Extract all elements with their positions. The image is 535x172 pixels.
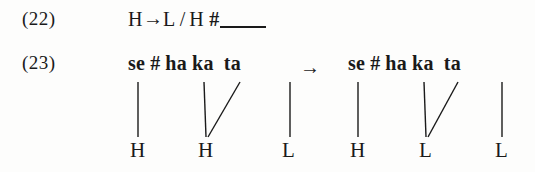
assoc-line-in-ha-h [204,82,206,137]
rule-boundary-marker: # [209,8,219,30]
rule-context-left: H [189,8,204,30]
derivation-arrow-icon: → [300,56,320,79]
example-number-22: (22) [22,8,56,30]
input-tone-h2: H [198,138,213,163]
input-syllable-ha: ha [165,52,187,74]
input-syllable-se: se [128,52,145,74]
rule-arrow-icon: → [143,7,163,30]
figure-canvas: (22) H→L/H # (23) se # ha ka ta → se # h… [0,0,535,172]
output-syllable-ka: ka [412,52,434,74]
rule-expression-22: H→L/H # [128,8,266,31]
output-syllable-ha: ha [385,52,407,74]
output-tone-l2: L [495,138,508,163]
rule-blank-slot [220,10,266,28]
output-syllable-tier: se # ha ka ta [348,52,461,75]
input-boundary-marker: # [150,52,160,74]
output-syllable-ta: ta [444,52,461,74]
output-boundary-marker: # [370,52,380,74]
rule-change: L [163,8,176,30]
input-syllable-ta: ta [224,52,241,74]
assoc-line-out-ha-l [424,82,426,137]
association-lines [0,0,535,172]
assoc-line-in-ka-h [208,82,240,137]
input-syllable-tier: se # ha ka ta [128,52,241,75]
rule-focus: H [128,8,143,30]
assoc-line-out-ka-l [428,82,458,137]
input-tone-h1: H [130,138,145,163]
input-tone-l1: L [282,138,295,163]
example-number-23: (23) [22,52,56,74]
rule-slash: / [176,8,190,30]
input-syllable-ka: ka [192,52,214,74]
output-tone-h1: H [350,138,365,163]
output-syllable-se: se [348,52,365,74]
output-tone-l1: L [419,138,432,163]
